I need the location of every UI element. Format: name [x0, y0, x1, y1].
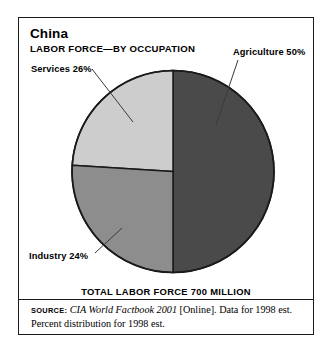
source-work-title: CIA World Factbook 2001 [70, 304, 177, 315]
source-divider [19, 299, 313, 300]
pie-label-services: Services 26% [31, 64, 92, 74]
pie-label-industry: Industry 24% [29, 251, 88, 261]
total-labor-force-caption: TOTAL LABOR FORCE 700 MILLION [18, 286, 314, 297]
page-title: China [30, 26, 270, 41]
pie-label-agriculture: Agriculture 50% [233, 47, 305, 57]
source-kicker: Source: [31, 306, 67, 315]
source-note: Source: CIA World Factbook 2001 [Online]… [31, 303, 305, 330]
figure-container: China LABOR FORCE—BY OCCUPATION Services… [0, 0, 333, 351]
